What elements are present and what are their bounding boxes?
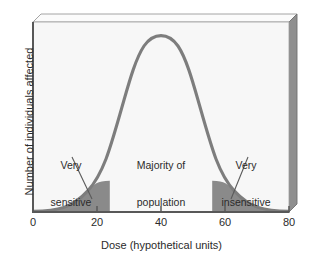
panel-right-face bbox=[289, 14, 297, 212]
annotation-majority-of-population: Majority of population bbox=[124, 134, 198, 233]
x-axis-title: Dose (hypothetical units) bbox=[33, 239, 290, 252]
y-axis-title: Number of individuals affected bbox=[23, 26, 36, 216]
annotation-very-insensitive: Very insensitive bbox=[212, 134, 280, 233]
annotation-very-insensitive-line1: Very bbox=[212, 159, 280, 171]
figure-container: Number of individuals affected Dose (hyp… bbox=[0, 0, 316, 265]
annotation-very-sensitive: Very sensitive bbox=[42, 134, 100, 233]
annotation-very-sensitive-line1: Very bbox=[42, 159, 100, 171]
annotation-majority-line2: population bbox=[124, 196, 198, 208]
panel-top-face bbox=[33, 14, 297, 22]
annotation-very-insensitive-line2: insensitive bbox=[212, 196, 280, 208]
annotation-majority-line1: Majority of bbox=[124, 159, 198, 171]
annotation-very-sensitive-line2: sensitive bbox=[42, 196, 100, 208]
